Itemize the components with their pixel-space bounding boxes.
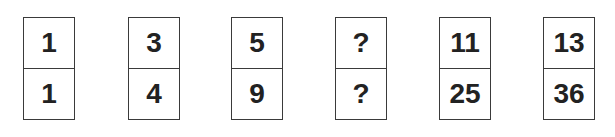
domino-3: 5 9 (231, 17, 283, 120)
domino-5: 11 25 (439, 17, 491, 120)
domino-top-value: 5 (232, 18, 282, 69)
domino-bottom-value: ? (336, 69, 386, 120)
domino-bottom-value: 36 (544, 69, 594, 120)
domino-1: 1 1 (23, 17, 75, 120)
domino-bottom-value: 9 (232, 69, 282, 120)
domino-top-value: 13 (544, 18, 594, 69)
domino-bottom-value: 4 (129, 69, 179, 120)
domino-2: 3 4 (128, 17, 180, 120)
domino-top-value: 1 (24, 18, 74, 69)
domino-6: 13 36 (543, 17, 595, 120)
domino-top-value: ? (336, 18, 386, 69)
domino-4-unknown: ? ? (335, 17, 387, 120)
domino-top-value: 3 (129, 18, 179, 69)
domino-bottom-value: 25 (440, 69, 490, 120)
domino-top-value: 11 (440, 18, 490, 69)
domino-bottom-value: 1 (24, 69, 74, 120)
